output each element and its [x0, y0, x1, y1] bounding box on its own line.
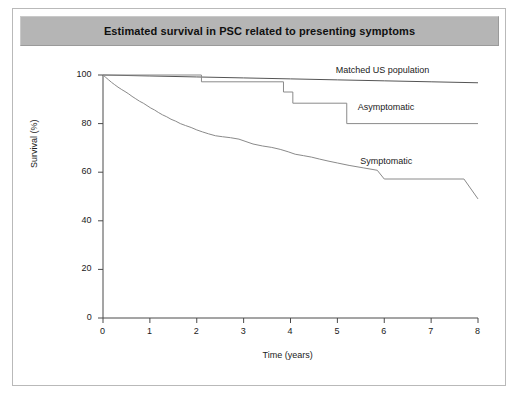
y-tick-label: 0	[87, 312, 92, 322]
series-label: Symptomatic	[360, 156, 412, 166]
series-label: Matched US population	[336, 65, 430, 75]
x-tick-label: 5	[334, 326, 339, 336]
x-tick-label: 4	[288, 326, 293, 336]
x-axis-label: Time (years)	[263, 350, 313, 360]
y-axis-label: Survival (%)	[29, 119, 39, 168]
y-tick-label: 60	[82, 166, 92, 176]
series-label: Asymptomatic	[358, 102, 415, 112]
y-tick-label: 100	[76, 69, 91, 79]
x-tick-label: 3	[241, 326, 246, 336]
page-title: Estimated survival in PSC related to pre…	[104, 25, 415, 37]
y-tick-label: 80	[82, 118, 92, 128]
x-tick-label: 2	[194, 326, 199, 336]
y-tick-label: 40	[82, 215, 92, 225]
x-tick-label: 1	[147, 326, 152, 336]
x-tick-label: 6	[381, 326, 386, 336]
x-tick-label: 0	[100, 326, 105, 336]
y-tick-label: 20	[82, 263, 92, 273]
x-tick-label: 7	[428, 326, 433, 336]
chart-title-band: Estimated survival in PSC related to pre…	[20, 16, 499, 46]
x-tick-label: 8	[475, 326, 480, 336]
